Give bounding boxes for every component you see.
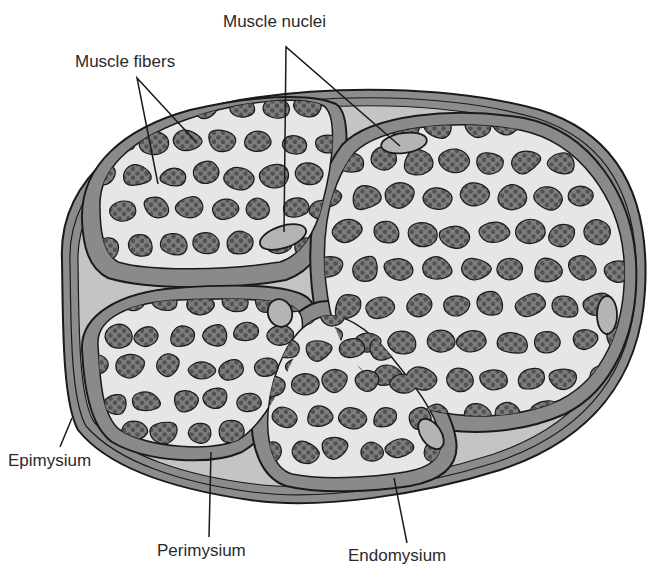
- muscle-fiber: [245, 131, 271, 151]
- epimysium-label: Epimysium: [8, 451, 91, 471]
- muscle-fiber: [477, 153, 504, 174]
- muscle-fiber: [188, 423, 210, 443]
- muscle-fiber: [497, 333, 527, 354]
- muscle-nuclei-label: Muscle nuclei: [223, 12, 326, 32]
- endomysium-label: Endomysium: [348, 546, 446, 566]
- muscle-fiber: [203, 388, 227, 408]
- muscle-fiber: [193, 233, 219, 254]
- muscle-fiber: [282, 136, 306, 154]
- muscle-fiber: [292, 374, 320, 395]
- muscle-fiber: [497, 258, 523, 280]
- muscle-fiber: [568, 186, 593, 206]
- muscle-fiber: [603, 115, 628, 138]
- muscle-fiber: [110, 201, 136, 221]
- muscle-fiber: [254, 358, 277, 376]
- muscle-fiber: [423, 188, 452, 210]
- muscle-fiber: [516, 219, 546, 243]
- muscle-fiber: [339, 339, 365, 358]
- muscle-fiber: [388, 331, 416, 354]
- muscle-fiber: [408, 223, 437, 247]
- muscle-cross-section-diagram: [0, 0, 659, 581]
- muscle-fiber: [603, 404, 632, 428]
- muscle-fiber: [584, 220, 611, 245]
- muscle-fiber: [374, 221, 399, 243]
- muscle-fiber: [193, 161, 219, 183]
- muscle-fiber: [447, 368, 474, 392]
- muscle-fiber: [160, 234, 187, 255]
- muscle-fiber: [227, 231, 253, 254]
- perimysium-label: Perimysium: [157, 541, 246, 561]
- muscle-fiber: [427, 330, 455, 352]
- nucleus: [597, 296, 617, 334]
- muscle-fiber: [188, 362, 216, 379]
- muscle-fiber: [479, 222, 510, 242]
- muscle-fiber: [460, 183, 489, 206]
- muscle-fiber: [246, 198, 269, 219]
- muscle-fiber: [209, 130, 236, 152]
- muscle-fiber: [128, 235, 152, 257]
- muscle-fiber: [105, 324, 132, 348]
- muscle-fiber: [535, 332, 561, 353]
- muscle-fiber: [284, 198, 310, 217]
- epimysium-leader: [60, 418, 72, 447]
- muscle-fiber: [477, 291, 503, 315]
- muscle-fiber: [93, 96, 117, 118]
- muscle-fiber: [127, 96, 152, 116]
- muscle-fiber: [237, 393, 261, 411]
- muscle-fiber: [498, 185, 527, 210]
- muscle-fiber: [295, 163, 323, 185]
- muscle-fibers-label: Muscle fibers: [75, 52, 175, 72]
